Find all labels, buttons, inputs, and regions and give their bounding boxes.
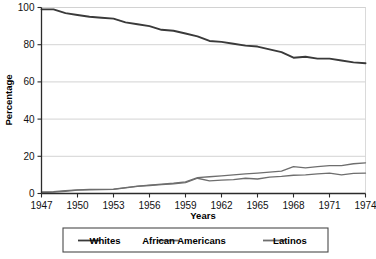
legend-items: WhitesAfrican AmericansLatinos — [78, 235, 307, 246]
y-tick-label-60: 60 — [23, 76, 35, 87]
x-axis-title: Years — [190, 210, 215, 221]
x-tick-label-1956: 1956 — [138, 200, 161, 211]
x-tick-label-1953: 1953 — [102, 200, 125, 211]
y-tick-label-40: 40 — [23, 114, 35, 125]
chart-canvas: 020406080100 194719501953195619591962196… — [0, 0, 376, 259]
legend-label-african-americans: African Americans — [142, 235, 226, 246]
x-tick-label-1962: 1962 — [210, 200, 233, 211]
y-tick-label-80: 80 — [23, 39, 35, 50]
x-tick-label-1950: 1950 — [66, 200, 89, 211]
chart-background — [0, 0, 376, 259]
x-tick-label-1959: 1959 — [174, 200, 197, 211]
x-tick-label-1968: 1968 — [282, 200, 305, 211]
legend-label-latinos: Latinos — [273, 235, 307, 246]
x-tick-label-1971: 1971 — [318, 200, 341, 211]
legend-label-whites: Whites — [89, 235, 120, 246]
x-tick-label-1974: 1974 — [354, 200, 376, 211]
chart-legend: WhitesAfrican AmericansLatinos — [63, 228, 328, 252]
y-tick-label-100: 100 — [18, 2, 35, 13]
line-chart: 020406080100 194719501953195619591962196… — [0, 0, 376, 259]
x-tick-label-1947: 1947 — [30, 200, 53, 211]
y-axis-title: Percentage — [3, 74, 14, 125]
y-tick-label-0: 0 — [29, 188, 35, 199]
y-tick-label-20: 20 — [23, 151, 35, 162]
x-tick-label-1965: 1965 — [246, 200, 269, 211]
